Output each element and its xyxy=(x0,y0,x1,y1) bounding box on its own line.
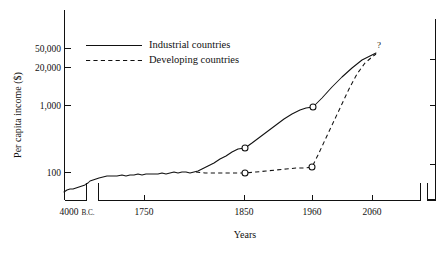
x-tick-label-4000bc: 4000B.C. xyxy=(59,207,94,217)
y-axis-tick-labels: 50,000 20,000 1,000 100 xyxy=(35,44,61,178)
right-axis-ticks xyxy=(430,60,436,165)
chart-canvas: 50,000 20,000 1,000 100 Per capita incom… xyxy=(0,0,447,258)
x-tick-label-4000bc-suffix: B.C. xyxy=(81,209,94,217)
data-point-developing-1850 xyxy=(242,170,248,176)
x-axis-ticks xyxy=(145,195,373,201)
x-tick-label-1850: 1850 xyxy=(235,207,254,217)
data-point-developing-1960 xyxy=(309,164,315,170)
legend-label-industrial-countries: Industrial countries xyxy=(149,39,230,50)
legend-label-developing-countries: Developing countries xyxy=(149,54,239,65)
y-axis-title: Per capita income ($) xyxy=(12,72,24,158)
y-tick-label-20000: 20,000 xyxy=(35,63,61,73)
data-point-industrial-1850 xyxy=(242,145,248,151)
x-tick-label-4000bc-value: 4000 xyxy=(59,207,78,217)
x-tick-label-1960: 1960 xyxy=(303,207,322,217)
y-tick-label-50000: 50,000 xyxy=(35,44,61,54)
series-industrial-countries-markers xyxy=(242,104,316,151)
y-tick-label-1000: 1,000 xyxy=(40,101,62,111)
x-tick-label-2060: 2060 xyxy=(363,207,382,217)
y-axis-ticks xyxy=(65,49,71,173)
series-developing-countries-line xyxy=(196,54,376,173)
x-axis-title: Years xyxy=(234,229,256,240)
x-tick-label-1750: 1750 xyxy=(135,207,154,217)
future-uncertainty-annotation: ? xyxy=(377,40,381,50)
series-industrial-countries-line xyxy=(64,53,376,192)
data-point-industrial-1960 xyxy=(310,104,316,110)
chart-figure: 50,000 20,000 1,000 100 Per capita incom… xyxy=(0,0,447,258)
x-axis-tick-labels: 4000B.C. 1750 1850 1960 2060 xyxy=(59,207,381,217)
y-tick-label-100: 100 xyxy=(47,168,62,178)
chart-legend: Industrial countries Developing countrie… xyxy=(86,39,239,65)
